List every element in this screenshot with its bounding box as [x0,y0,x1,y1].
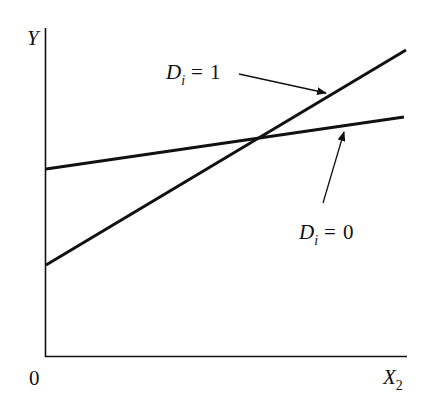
label-d0-value: 0 [343,220,354,244]
label-d1-eq: = [191,60,203,84]
label-d0-subscript: i [314,233,318,248]
label-d1-var: D [166,60,181,84]
x-axis-label-subscript: 2 [396,378,403,393]
arrow-to-d1-line [239,74,326,93]
line-d-equals-0 [46,117,404,169]
arrow-to-d0-line [323,132,344,203]
label-d-equals-0: Di=0 [299,222,353,243]
label-d0-eq: = [324,220,336,244]
x-axis-label: X2 [383,367,403,388]
label-d-equals-1: Di=1 [166,62,220,83]
label-d0-var: D [299,220,314,244]
x-axis-label-var: X [383,365,396,389]
label-d1-value: 1 [210,60,221,84]
y-axis-label: Y [27,28,39,49]
origin-label: 0 [29,368,40,389]
label-d1-subscript: i [181,73,185,88]
